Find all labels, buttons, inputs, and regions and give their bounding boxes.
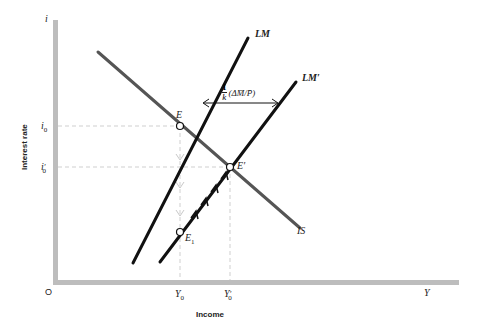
origin-label: O	[45, 288, 52, 297]
money-change-expression: (ΔM̄/P̄)	[229, 88, 256, 98]
tick-y0-prime: Y′0	[224, 289, 232, 302]
point-e-label: E	[176, 110, 182, 120]
lm-curve	[133, 38, 248, 263]
point-e-prime	[227, 164, 234, 171]
point-e1	[177, 229, 184, 236]
point-e1-label: E1	[185, 233, 195, 246]
x-axis	[53, 280, 459, 285]
tick-i0-prime: i′0	[41, 162, 46, 175]
lm-prime-label: LM′	[302, 73, 320, 83]
is-label: IS	[297, 226, 305, 236]
tick-y0: Y0	[175, 289, 184, 302]
y-axis	[53, 20, 58, 285]
x-axis-label: Income	[196, 310, 224, 319]
point-e-prime-label: E′	[237, 161, 245, 171]
tick-i0: i0	[41, 121, 47, 134]
y-axis-label: Interest rate	[20, 124, 29, 170]
y-axis-symbol: i	[45, 14, 48, 24]
fraction-one-over-k: 1 k	[222, 83, 227, 102]
x-axis-symbol: Y	[424, 288, 430, 298]
shift-annotation: 1 k (ΔM̄/P̄)	[222, 83, 255, 102]
is-curve	[98, 52, 300, 228]
point-e	[177, 123, 184, 130]
lm-label: LM	[255, 29, 270, 39]
